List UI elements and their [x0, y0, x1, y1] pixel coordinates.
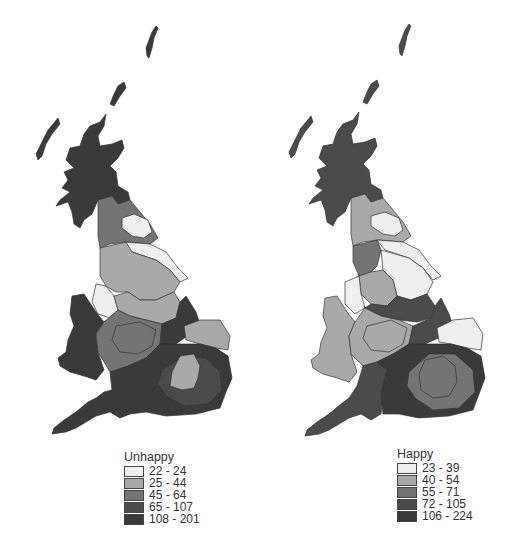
happy-cartogram-map: [253, 0, 507, 440]
legend-label: 108 - 201: [149, 513, 200, 525]
region-orkney: [363, 80, 379, 104]
unhappy-cartogram-map: [0, 0, 254, 440]
legend-swatch: [124, 502, 144, 513]
happy-map-graphic: [253, 0, 507, 440]
legend-swatch: [397, 463, 417, 474]
happy-legend: Happy 23 - 39 40 - 54 55 - 71 72 - 105 1…: [397, 447, 473, 522]
legend-title: Unhappy: [124, 450, 200, 464]
legend-title: Happy: [397, 447, 473, 461]
region-hebrides: [289, 116, 313, 158]
legend-swatch: [124, 466, 144, 477]
legend-swatch: [124, 478, 144, 489]
legend-swatch: [124, 490, 144, 501]
region-shetland: [146, 26, 158, 58]
region-cumbria: [353, 240, 381, 276]
legend-swatch: [397, 487, 417, 498]
legend-label: 106 - 224: [422, 510, 473, 522]
legend-swatch: [397, 499, 417, 510]
legend-item: 108 - 201: [124, 513, 200, 525]
region-hebrides: [36, 118, 60, 160]
legend-swatch: [124, 514, 144, 525]
unhappy-map-graphic: [0, 0, 254, 440]
legend-swatch: [397, 511, 417, 522]
unhappy-legend: Unhappy 22 - 24 25 - 44 45 - 64 65 - 107…: [124, 450, 200, 525]
legend-item: 106 - 224: [397, 510, 473, 522]
legend-swatch: [397, 475, 417, 486]
region-shetland: [399, 24, 411, 56]
region-orkney: [110, 82, 126, 106]
